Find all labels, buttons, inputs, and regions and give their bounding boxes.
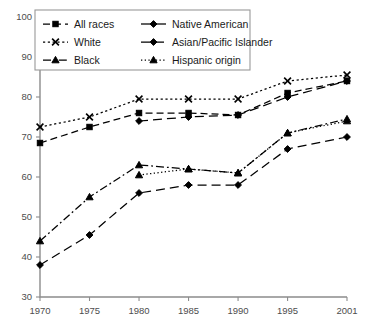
x-tick-label: 1970 — [29, 305, 50, 316]
marker-square — [53, 21, 58, 26]
series-black — [36, 115, 350, 243]
legend-item-label: Hispanic origin — [172, 54, 241, 66]
marker-diamond — [136, 118, 143, 125]
y-tick-label: 50 — [21, 211, 32, 222]
series-path — [40, 81, 347, 143]
series-white — [37, 72, 351, 131]
marker-square — [136, 110, 141, 115]
series-layer — [36, 72, 350, 269]
marker-x — [136, 96, 143, 103]
y-tick-label: 80 — [21, 91, 32, 102]
series-asian-pacific-islander — [136, 78, 351, 125]
series-path — [40, 75, 347, 127]
series-path — [40, 119, 347, 241]
line-chart: 30405060708090100 1970197519801985199019… — [0, 0, 367, 335]
y-tick-label: 70 — [21, 131, 32, 142]
legend-item-label: Black — [74, 54, 100, 66]
marker-diamond — [37, 262, 44, 269]
series-path — [139, 81, 347, 121]
y-tick-label: 60 — [21, 171, 32, 182]
y-tick-label: 40 — [21, 251, 32, 262]
series-path — [40, 137, 347, 265]
legend-item-label: All races — [74, 18, 114, 30]
series-native-american — [37, 134, 351, 269]
x-tick-label: 2001 — [336, 305, 357, 316]
x-tick-label: 1990 — [227, 305, 248, 316]
marker-diamond — [185, 182, 192, 189]
legend-item-label: Asian/Pacific Islander — [172, 36, 273, 48]
marker-triangle — [135, 171, 142, 177]
legend-item-label: Native American — [172, 18, 249, 30]
chart-container: 30405060708090100 1970197519801985199019… — [0, 0, 367, 335]
legend-item-label: White — [74, 36, 101, 48]
y-tick-label: 30 — [21, 291, 32, 302]
marker-diamond — [344, 134, 351, 141]
x-axis-tick-group: 1970197519801985199019952001 — [29, 297, 357, 316]
series-hispanic-origin — [135, 117, 350, 177]
y-tick-label: 100 — [16, 11, 32, 22]
x-tick-label: 1975 — [79, 305, 100, 316]
marker-square — [87, 124, 92, 129]
x-tick-label: 1985 — [178, 305, 199, 316]
x-tick-label: 1995 — [277, 305, 298, 316]
x-tick-label: 1980 — [128, 305, 149, 316]
series-path — [139, 121, 347, 175]
marker-x — [235, 96, 242, 103]
marker-triangle — [86, 193, 93, 199]
marker-x — [284, 78, 291, 85]
y-tick-label: 90 — [21, 51, 32, 62]
marker-square — [37, 140, 42, 145]
series-all-races — [37, 78, 349, 145]
chart-legend: All racesNative AmericanWhiteAsian/Pacif… — [35, 10, 273, 70]
